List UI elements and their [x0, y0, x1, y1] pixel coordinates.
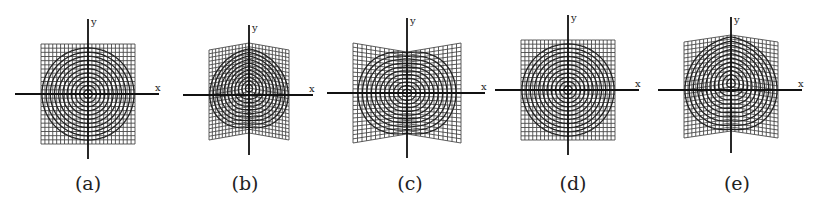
- y-axis-label: y: [90, 16, 97, 27]
- x-axis-label: x: [481, 81, 487, 92]
- panel-label-a: (a): [75, 172, 101, 194]
- panel-label-d: (d): [560, 172, 587, 194]
- panel-label-c: (c): [397, 172, 422, 194]
- y-axis-label: y: [251, 22, 258, 33]
- panel-e: xy: [658, 14, 804, 153]
- x-axis-label: x: [798, 78, 804, 89]
- panel-b: xy: [183, 22, 315, 155]
- x-axis-label: x: [155, 82, 161, 93]
- panel-a: xy: [15, 16, 161, 159]
- y-axis-label: y: [733, 14, 740, 25]
- panel-label-e: (e): [724, 172, 750, 194]
- y-axis-label: y: [570, 12, 577, 23]
- panel-d: xy: [495, 12, 641, 155]
- x-axis-label: x: [309, 83, 315, 94]
- panel-c: xy: [327, 15, 487, 158]
- x-axis-label: x: [635, 78, 641, 89]
- y-axis-label: y: [409, 15, 416, 26]
- panel-label-b: (b): [232, 172, 259, 194]
